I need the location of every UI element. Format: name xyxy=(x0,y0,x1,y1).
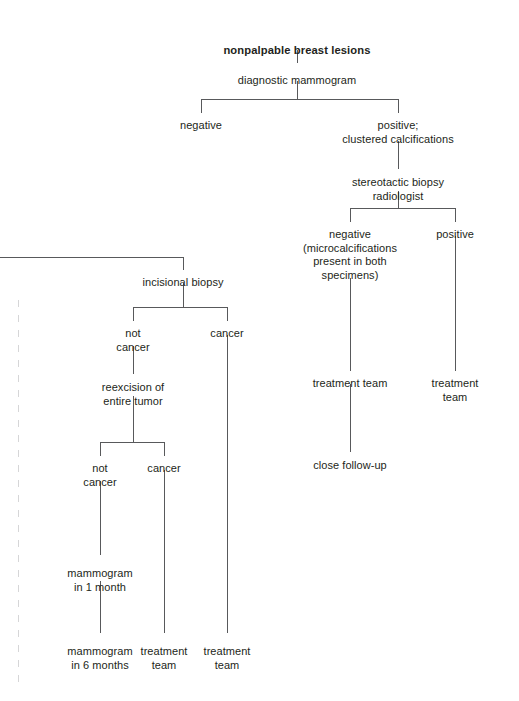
connector-e-to-renotcancer xyxy=(100,442,101,456)
node-close_followup: close follow-up xyxy=(313,459,387,473)
connector-e-incisional-split xyxy=(133,307,227,308)
node-stereotactic: stereotactic biopsy radiologist xyxy=(352,176,444,203)
connector-e-recancer-to-tx xyxy=(164,470,165,633)
connector-e-dxmammo-split xyxy=(201,99,398,100)
node-re_cancer: cancer xyxy=(147,462,180,476)
connector-e-inccancer-to-tx xyxy=(227,335,228,633)
flowchart-canvas: nonpalpable breast lesionsdiagnostic mam… xyxy=(0,0,519,701)
page-fold-artifact xyxy=(18,300,19,690)
connector-e-renotcancer-to-mammo1 xyxy=(100,481,101,555)
node-inc_cancer: cancer xyxy=(210,327,243,341)
node-mammo_1_month: mammogram in 1 month xyxy=(67,567,132,594)
connector-e-to-recancer xyxy=(164,442,165,456)
connector-e-offpage-to-incisional xyxy=(0,257,183,258)
node-root: nonpalpable breast lesions xyxy=(223,44,370,58)
connector-e-to-negative1 xyxy=(201,99,202,113)
node-positive_clustered: positive; clustered calcifications xyxy=(342,119,453,146)
connector-e-tx-to-followup xyxy=(350,384,351,452)
node-stereo_negative: negative (microcalcifications present in… xyxy=(303,228,397,282)
node-reexcision: reexcision of entire tumor xyxy=(102,381,164,408)
node-stereo_positive: positive xyxy=(436,228,474,242)
node-mammo_6_months: mammogram in 6 months xyxy=(67,645,132,672)
node-tx_team_re_cancer: treatment team xyxy=(141,645,188,672)
connector-e-to-stereoneg xyxy=(350,208,351,222)
node-inc_not_cancer: not cancer xyxy=(116,327,149,354)
node-re_not_cancer: not cancer xyxy=(83,462,116,489)
node-tx_team_stereo_neg: treatment team xyxy=(313,377,388,391)
connector-e-stereoneg-to-tx xyxy=(350,278,351,371)
connector-e-reexcision-split xyxy=(100,442,164,443)
node-tx_team_inc_cancer: treatment team xyxy=(204,645,251,672)
connector-e-stereopos-to-tx xyxy=(455,236,456,371)
node-incisional_biopsy: incisional biopsy xyxy=(142,276,223,290)
node-tx_team_stereo_pos: treatment team xyxy=(423,377,487,404)
connector-e-to-positive xyxy=(398,99,399,113)
node-negative_1: negative xyxy=(180,119,222,133)
connector-e-incisional-drop xyxy=(183,257,184,270)
connector-e-to-incnotcancer xyxy=(133,307,134,321)
connector-e-stereo-split xyxy=(350,208,455,209)
node-dx_mammogram: diagnostic mammogram xyxy=(238,74,356,88)
connector-e-to-stereopos xyxy=(455,208,456,222)
connector-e-to-inccancer xyxy=(227,307,228,321)
